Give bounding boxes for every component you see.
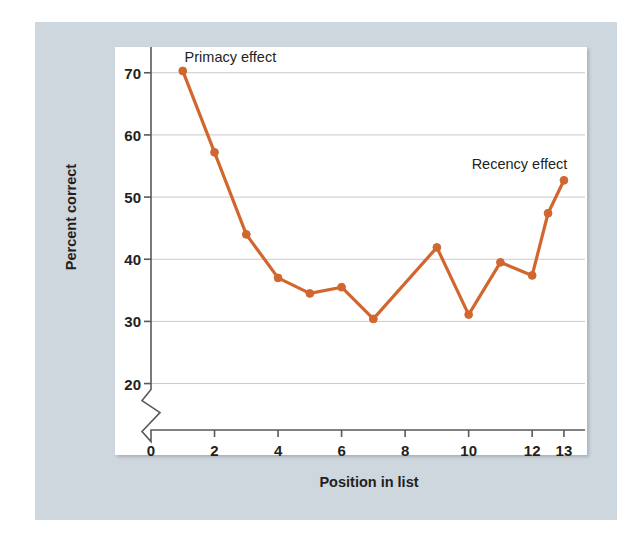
x-tick-label: 8	[401, 442, 409, 459]
x-tick-label: 6	[337, 442, 345, 459]
x-tick-label: 10	[460, 442, 477, 459]
data-point	[274, 274, 282, 282]
data-point	[306, 290, 314, 298]
data-point	[497, 258, 505, 266]
data-point	[528, 272, 536, 280]
y-tick-label: 50	[109, 189, 141, 206]
x-tick-label: 13	[556, 442, 573, 459]
y-tick-label: 20	[109, 375, 141, 392]
x-tick-label: 0	[147, 442, 155, 459]
plot-panel	[115, 47, 587, 455]
x-tick-label: 4	[274, 442, 282, 459]
plot-annotation: Recency effect	[472, 156, 568, 172]
y-axis-title: Percent correct	[63, 147, 79, 287]
data-point	[242, 230, 250, 238]
data-point	[369, 315, 377, 323]
data-line	[183, 71, 564, 319]
data-point	[338, 283, 346, 291]
data-point	[560, 176, 568, 184]
data-point	[544, 209, 552, 217]
plot-annotation: Primacy effect	[185, 49, 277, 65]
x-tick-label: 12	[524, 442, 541, 459]
data-point	[179, 67, 187, 75]
data-point	[433, 244, 441, 252]
axis-lines-with-break	[142, 47, 585, 442]
x-axis-title: Position in list	[151, 474, 587, 490]
y-tick-label: 60	[109, 126, 141, 143]
y-tick-label: 70	[109, 64, 141, 81]
data-point	[211, 148, 219, 156]
figure-mount: 203040506070 02468101213 Primacy effectR…	[35, 22, 617, 520]
plot-canvas	[115, 47, 587, 455]
y-tick-label: 30	[109, 313, 141, 330]
y-tick-label: 40	[109, 251, 141, 268]
x-tick-label: 2	[210, 442, 218, 459]
data-point	[465, 311, 473, 319]
figure-root: 203040506070 02468101213 Primacy effectR…	[0, 0, 635, 545]
